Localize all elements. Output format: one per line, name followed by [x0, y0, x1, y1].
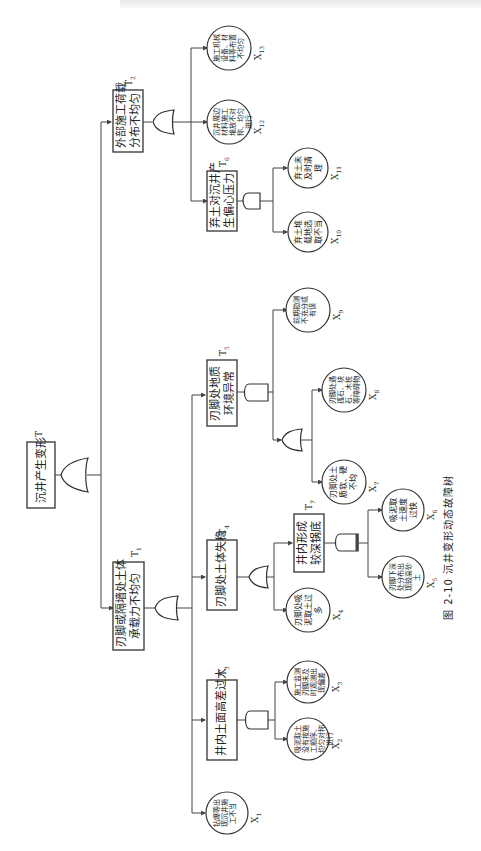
- X9-label: 前期勘测不充分或有误: [293, 294, 317, 326]
- figure-caption: 图 2-10 沉井变形动态故障树: [440, 475, 455, 620]
- X9-id: X9: [332, 310, 344, 320]
- X13-id: X13: [253, 46, 265, 60]
- T7-id: T7: [304, 500, 316, 510]
- T2-or-gate: [153, 110, 174, 134]
- X4-label: 刃脚处吸泥取土过多: [294, 594, 324, 626]
- X12-label: 沉井周边材料施工堆放不对称、均匀进行: [213, 106, 253, 138]
- X8-id: X8: [368, 390, 380, 400]
- X1-id: X1: [250, 813, 262, 823]
- T7-label: 井内形成较深锅底: [296, 517, 324, 569]
- T1-id: T1: [130, 547, 142, 557]
- T2-id: T2: [124, 76, 136, 86]
- X7-id: X7: [368, 482, 380, 492]
- X1-label: 钻爆等出现沉井施工不当: [213, 798, 237, 828]
- X2-label: 吸泥取土没有按施工顺序、均匀对称进行: [294, 724, 334, 754]
- top-event-label: 沉井产生变形: [35, 447, 49, 503]
- X10-id: X10: [330, 230, 342, 244]
- T5-label: 刃脚处地质环境异常: [209, 363, 237, 423]
- top-event-id: T: [34, 431, 44, 437]
- T4-label: 刃脚处土体失稳: [215, 543, 229, 607]
- X11-id: X11: [330, 166, 342, 180]
- X4-id: X4: [332, 610, 344, 620]
- X12-id: X12: [253, 120, 265, 134]
- T4-id: T4: [218, 525, 230, 535]
- X5-id: X5: [426, 578, 438, 588]
- X10-label: 弃土堆载地选取不当: [294, 218, 324, 246]
- T4-or-gate: [249, 566, 268, 588]
- X3-id: X3: [331, 682, 343, 692]
- X11-label: 弃土未及时清理: [294, 154, 324, 182]
- T3-and-gate: [246, 711, 269, 729]
- X2-id: X2: [331, 739, 343, 749]
- T3-id: T3: [218, 666, 230, 676]
- T5-and-gate: [245, 384, 269, 401]
- T6-label: 弃土对沉井产生偏心压力: [209, 174, 237, 228]
- X7-label: 刃脚处土质软、硬不均: [329, 466, 359, 498]
- X6-label: 吸泥取土速度过快: [389, 495, 419, 525]
- T1-label: 刃脚或隔墙处土体承载力不均匀: [115, 565, 143, 647]
- X5-label: 刃脚下深处分布出现较高砂土: [389, 562, 421, 592]
- T6-id: T6: [218, 157, 230, 167]
- T5-sub-or-gate: [282, 429, 302, 451]
- X8-label: 刃脚处遇孤石、块石、木桩等障碍物: [329, 374, 361, 406]
- T2-label: 外部施工荷载分布不均匀: [115, 94, 143, 148]
- top-or-gate: [61, 458, 88, 492]
- T6-and-gate: [243, 193, 260, 209]
- T7-priority-and-gate: [336, 534, 359, 551]
- X3-label: 施工监测刃脚未及时观测出现偏差: [294, 667, 326, 697]
- T1-or-gate: [155, 596, 178, 620]
- X6-id: X6: [426, 510, 438, 520]
- T5-id: T5: [218, 346, 230, 356]
- T3-label: 井内土面高差过大: [215, 684, 229, 756]
- X13-label: 施工机械设备、材料等布置不均匀: [213, 32, 245, 64]
